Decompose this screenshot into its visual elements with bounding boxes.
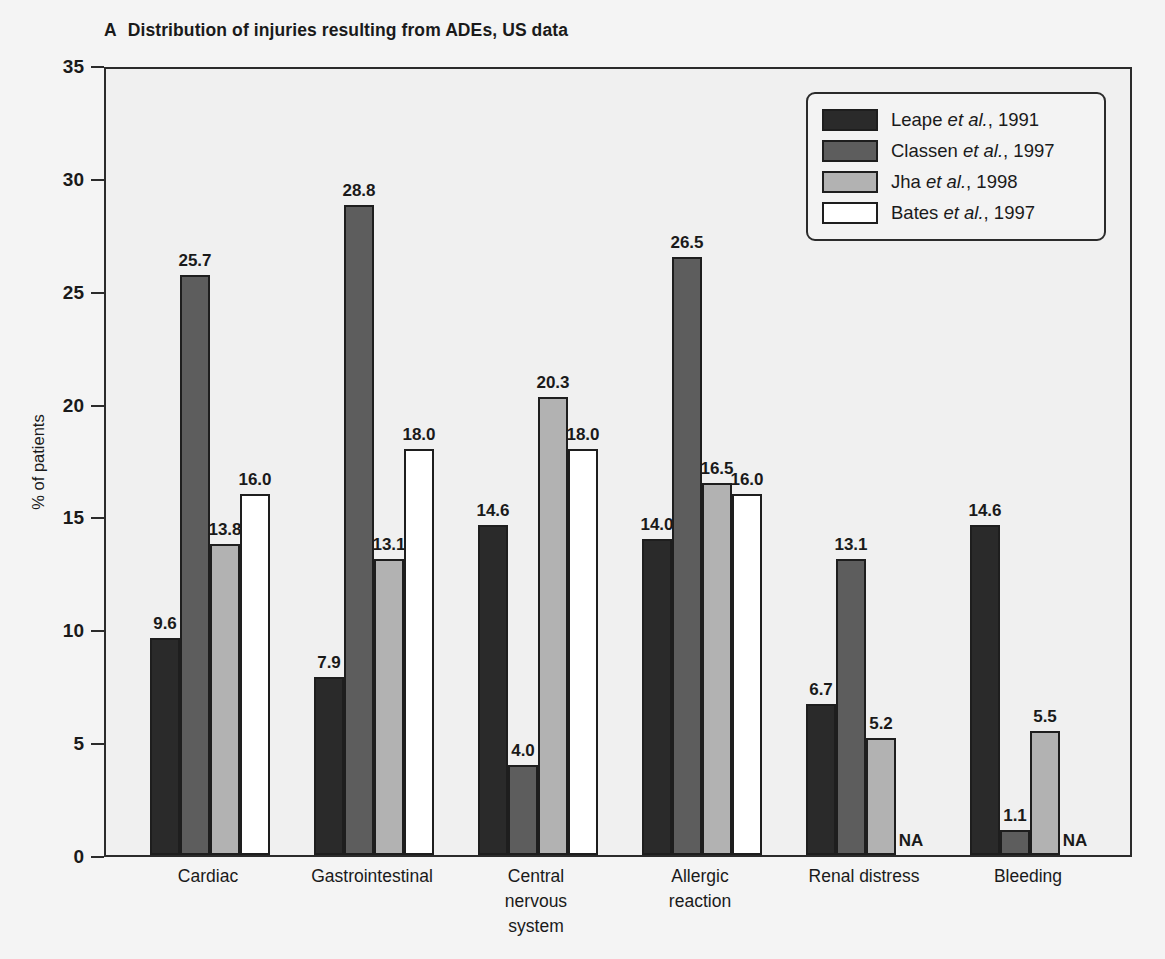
- bar[interactable]: [344, 205, 374, 855]
- bar-slot[interactable]: 20.3: [538, 69, 568, 855]
- y-axis: % of patients 05101520253035: [0, 67, 104, 857]
- bar[interactable]: [672, 257, 702, 855]
- bar-value-label: 13.1: [372, 536, 405, 553]
- y-axis-tick-mark: [91, 743, 104, 745]
- y-axis-tick-mark: [91, 292, 104, 294]
- y-axis-tick-label: 25: [63, 282, 91, 304]
- x-axis-category-label-line: reaction: [605, 889, 795, 914]
- bar-value-label: 26.5: [670, 234, 703, 251]
- y-axis-tick: 30: [63, 169, 104, 191]
- legend-item-label: Jha et al., 1998: [891, 171, 1018, 193]
- bar-slot[interactable]: 13.8: [210, 69, 240, 855]
- bar-slot[interactable]: 18.0: [568, 69, 598, 855]
- legend-item-etal: et al.: [948, 109, 988, 130]
- bar-slot[interactable]: 18.0: [404, 69, 434, 855]
- bar-slot[interactable]: 16.0: [732, 69, 762, 855]
- y-axis-tick: 5: [73, 733, 104, 755]
- y-axis-tick-mark: [91, 179, 104, 181]
- bar[interactable]: [374, 559, 404, 855]
- bar-group-bars: 7.928.813.118.0: [314, 69, 434, 855]
- legend-item[interactable]: Bates et al., 1997: [822, 197, 1090, 228]
- legend-item[interactable]: Classen et al., 1997: [822, 135, 1090, 166]
- legend-item-label: Bates et al., 1997: [891, 202, 1035, 224]
- y-axis-tick-mark: [91, 405, 104, 407]
- legend-item-etal: et al.: [943, 202, 983, 223]
- bar-group: 7.928.813.118.0: [314, 69, 434, 855]
- x-axis-category-label: Bleeding: [933, 864, 1123, 889]
- y-axis-tick-label: 30: [63, 169, 91, 191]
- bar[interactable]: [180, 275, 210, 855]
- bar[interactable]: [866, 738, 896, 855]
- bar-value-label: 13.1: [834, 536, 867, 553]
- bar-slot[interactable]: 25.7: [180, 69, 210, 855]
- legend-color-swatch: [822, 202, 878, 224]
- bar[interactable]: [702, 483, 732, 855]
- bar-slot[interactable]: 9.6: [150, 69, 180, 855]
- bar-slot[interactable]: 4.0: [508, 69, 538, 855]
- bar[interactable]: [210, 544, 240, 855]
- bar[interactable]: [732, 494, 762, 855]
- bar[interactable]: [568, 449, 598, 855]
- y-axis-tick-mark: [91, 66, 104, 68]
- legend-color-swatch: [822, 171, 878, 193]
- bar[interactable]: [478, 525, 508, 855]
- y-axis-tick: 20: [63, 395, 104, 417]
- page-title: Distribution of injuries resulting from …: [128, 20, 568, 41]
- bar-slot[interactable]: 28.8: [344, 69, 374, 855]
- legend-item-etal: et al.: [926, 171, 966, 192]
- bar[interactable]: [240, 494, 270, 855]
- y-axis-tick: 0: [73, 846, 104, 868]
- bar-slot[interactable]: 14.6: [478, 69, 508, 855]
- y-axis-tick: 15: [63, 507, 104, 529]
- panel-letter: A: [104, 20, 117, 41]
- bar-group-bars: 14.026.516.516.0: [642, 69, 762, 855]
- bar-slot[interactable]: 14.0: [642, 69, 672, 855]
- chart-legend: Leape et al., 1991Classen et al., 1997Jh…: [806, 92, 1106, 241]
- bar[interactable]: [836, 559, 866, 855]
- legend-item[interactable]: Jha et al., 1998: [822, 166, 1090, 197]
- bar[interactable]: [1030, 731, 1060, 855]
- x-axis-category-label-line: Renal distress: [769, 864, 959, 889]
- x-axis-category-label: Renal distress: [769, 864, 959, 889]
- bar-slot[interactable]: 13.1: [374, 69, 404, 855]
- bar-value-label: 5.2: [869, 715, 893, 732]
- x-axis-category-label: Gastrointestinal: [277, 864, 467, 889]
- bar[interactable]: [1000, 830, 1030, 855]
- bar[interactable]: [150, 638, 180, 855]
- bar-group-bars: 14.64.020.318.0: [478, 69, 598, 855]
- y-axis-tick: 10: [63, 620, 104, 642]
- bar-value-label: 6.7: [809, 681, 833, 698]
- bar[interactable]: [538, 397, 568, 855]
- bar-slot[interactable]: 7.9: [314, 69, 344, 855]
- bar[interactable]: [806, 704, 836, 855]
- x-axis-category-label-line: Gastrointestinal: [277, 864, 467, 889]
- x-axis-category-label: Centralnervoussystem: [441, 864, 631, 939]
- bar[interactable]: [970, 525, 1000, 855]
- bar-slot[interactable]: 26.5: [672, 69, 702, 855]
- x-axis-category-label-line: Allergic: [605, 864, 795, 889]
- bar-value-label: 7.9: [317, 654, 341, 671]
- bar-value-label: 4.0: [511, 742, 535, 759]
- bar[interactable]: [508, 765, 538, 855]
- bar[interactable]: [642, 539, 672, 855]
- x-axis-category-label-line: Central: [441, 864, 631, 889]
- bar-value-label: 18.0: [402, 426, 435, 443]
- y-axis-tick-label: 0: [73, 846, 91, 868]
- legend-item-label: Leape et al., 1991: [891, 109, 1039, 131]
- bar-value-label: 14.0: [640, 516, 673, 533]
- legend-item[interactable]: Leape et al., 1991: [822, 104, 1090, 135]
- legend-color-swatch: [822, 140, 878, 162]
- bar-slot[interactable]: 16.0: [240, 69, 270, 855]
- figure-panel-a: A Distribution of injuries resulting fro…: [0, 0, 1165, 959]
- bar-slot[interactable]: 16.5: [702, 69, 732, 855]
- bar[interactable]: [404, 449, 434, 855]
- legend-item-etal: et al.: [963, 140, 1003, 161]
- x-axis-category-label: Allergicreaction: [605, 864, 795, 914]
- bar-na-label: NA: [899, 831, 924, 851]
- bar-na-label: NA: [1063, 831, 1088, 851]
- y-axis-tick-label: 15: [63, 507, 91, 529]
- y-axis-tick-label: 10: [63, 620, 91, 642]
- bar[interactable]: [314, 677, 344, 855]
- bar-value-label: 25.7: [178, 252, 211, 269]
- y-axis-title: % of patients: [29, 362, 48, 562]
